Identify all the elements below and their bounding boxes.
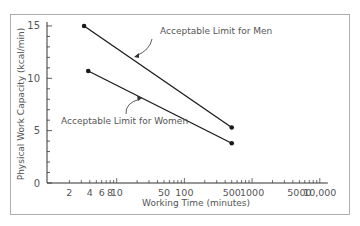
series-line-1	[88, 71, 231, 143]
x-tick-label: 4	[87, 187, 93, 198]
x-tick-label: 2	[66, 187, 72, 198]
annotation-men: Acceptable Limit for Men	[160, 26, 272, 36]
y-tick-label: 10	[27, 73, 40, 84]
axes: 051015246810501005001000500010,000	[27, 20, 336, 198]
y-tick-label: 15	[27, 20, 40, 31]
x-tick-label: 500	[223, 187, 241, 198]
arrow-men	[136, 39, 152, 56]
arrowhead-men	[134, 53, 139, 58]
y-axis-label: Physical Work Capacity (kcal/min)	[16, 28, 26, 181]
x-tick-label: 1000	[240, 187, 264, 198]
x-tick-label: 10,000	[303, 187, 336, 198]
data-point	[82, 24, 87, 29]
series-line-0	[84, 26, 232, 128]
arrow-women	[126, 99, 140, 114]
x-tick-label: 100	[175, 187, 193, 198]
series-group	[82, 24, 234, 146]
data-point	[229, 125, 234, 130]
x-tick-label: 6	[99, 187, 105, 198]
x-axis-label: Working Time (minutes)	[142, 198, 250, 208]
chart-frame	[11, 15, 350, 215]
x-tick-label: 10	[111, 187, 123, 198]
data-point	[229, 141, 234, 146]
chart: 051015246810501005001000500010,000 Accep…	[0, 0, 360, 226]
annotation-women: Acceptable Limit for Women	[61, 116, 188, 126]
x-tick-label: 50	[158, 187, 170, 198]
y-tick-label: 0	[34, 178, 40, 189]
data-point	[86, 69, 91, 74]
y-tick-label: 5	[34, 125, 40, 136]
